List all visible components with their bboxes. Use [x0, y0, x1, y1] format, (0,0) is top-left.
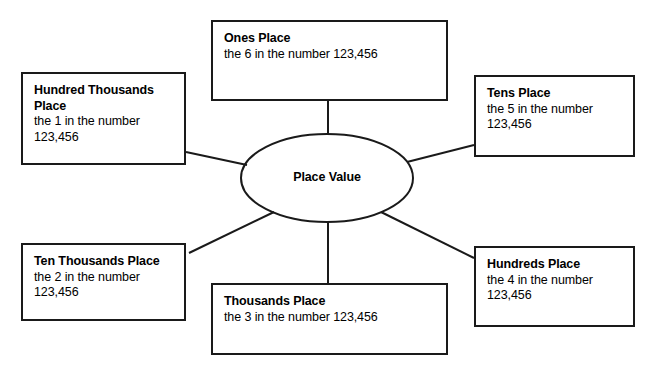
node-hundred-thousands-place[interactable]: Hundred Thousands Place the 1 in the num… — [21, 72, 186, 165]
node-body: the 5 in the number 123,456 — [487, 102, 622, 133]
node-ten-thousands-place[interactable]: Ten Thousands Place the 2 in the number … — [21, 243, 186, 321]
node-body: the 2 in the number 123,456 — [34, 270, 173, 301]
node-tens-place[interactable]: Tens Place the 5 in the number 123,456 — [474, 75, 635, 157]
node-title: Ten Thousands Place — [34, 254, 173, 270]
node-body: the 1 in the number 123,456 — [34, 114, 173, 145]
node-title: Hundreds Place — [487, 257, 622, 273]
place-value-diagram: Place Value Ones Place the 6 in the numb… — [0, 0, 652, 373]
node-title: Ones Place — [224, 31, 435, 47]
connector-hub-to-hundred-thousands — [186, 152, 247, 165]
node-body: the 3 in the number 123,456 — [224, 310, 435, 326]
connector-hub-to-ten-thousands — [189, 212, 274, 253]
node-hundreds-place[interactable]: Hundreds Place the 4 in the number 123,4… — [474, 246, 635, 327]
node-title: Thousands Place — [224, 294, 435, 310]
node-ones-place[interactable]: Ones Place the 6 in the number 123,456 — [211, 20, 448, 101]
node-thousands-place[interactable]: Thousands Place the 3 in the number 123,… — [211, 283, 448, 355]
hub-label: Place Value — [241, 170, 413, 184]
connector-hub-to-hundreds — [381, 212, 474, 258]
node-body: the 6 in the number 123,456 — [224, 47, 435, 63]
node-title: Tens Place — [487, 86, 622, 102]
connector-hub-to-tens — [407, 145, 474, 162]
node-body: the 4 in the number 123,456 — [487, 273, 622, 304]
node-title: Hundred Thousands Place — [34, 83, 173, 114]
